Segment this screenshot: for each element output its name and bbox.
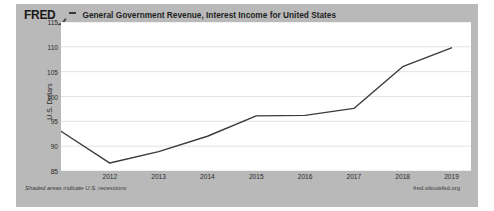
series-line-swatch xyxy=(69,12,76,14)
chart-header: FRED General Government Revenue, Interes… xyxy=(24,8,336,22)
x-axis-tick-label: 2013 xyxy=(151,173,166,181)
x-axis-tick-label: 2012 xyxy=(102,173,117,181)
plot-area xyxy=(61,22,471,171)
x-axis-tick-label: 2016 xyxy=(298,173,313,181)
y-axis-tick-label: 95 xyxy=(36,118,58,125)
chart-title: General Government Revenue, Interest Inc… xyxy=(82,10,336,20)
y-axis-tick-label: 100 xyxy=(36,93,58,100)
fred-chart-screenshot: FRED General Government Revenue, Interes… xyxy=(0,0,494,211)
x-axis-tick-label: 2014 xyxy=(200,173,215,181)
x-axis-tick-label: 2018 xyxy=(395,173,410,181)
gridlines xyxy=(61,22,471,171)
fred-chart-card: FRED General Government Revenue, Interes… xyxy=(16,4,478,207)
y-axis-tick-label: 110 xyxy=(36,43,58,50)
source-link[interactable]: fred.stlouisfed.org xyxy=(413,185,460,191)
y-axis-tick-label: 115 xyxy=(36,19,58,26)
fred-swoosh-icon xyxy=(58,12,67,20)
x-axis-tick-label: 2019 xyxy=(444,173,459,181)
y-axis: U.S. Dollars 859095100105110115 xyxy=(32,22,58,171)
y-axis-tick-label: 85 xyxy=(36,168,58,175)
x-axis: 20122013201420152016201720182019 xyxy=(61,173,471,183)
x-axis-tick-label: 2017 xyxy=(347,173,362,181)
x-axis-tick-label: 2015 xyxy=(249,173,264,181)
y-axis-tick-label: 105 xyxy=(36,68,58,75)
recession-note: Shaded areas indicate U.S. recessions xyxy=(25,185,127,191)
chart-plot-svg xyxy=(61,22,471,171)
y-axis-tick-label: 90 xyxy=(36,143,58,150)
